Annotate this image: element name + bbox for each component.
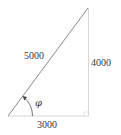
triangle-diagram: 5000 4000 3000 φ (0, 0, 121, 135)
vertical-leg-label: 4000 (91, 57, 111, 68)
hypotenuse-label: 5000 (24, 50, 44, 61)
hypotenuse (8, 8, 88, 116)
right-angle-marker (84, 112, 89, 116)
horizontal-leg-label: 3000 (37, 119, 57, 130)
angle-label: φ (35, 97, 42, 108)
